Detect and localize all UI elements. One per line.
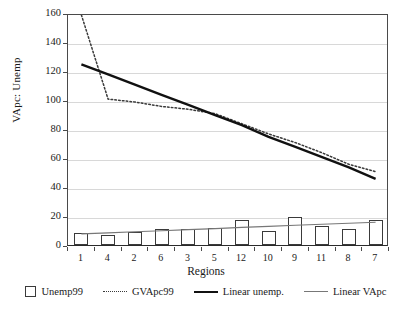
x-axis-title: Regions bbox=[0, 265, 412, 277]
x-axis-tick-mark bbox=[94, 247, 95, 251]
x-axis-tick-label: 10 bbox=[254, 252, 282, 263]
x-axis-tick-mark bbox=[308, 247, 309, 251]
x-axis-tick-label: 12 bbox=[227, 252, 255, 263]
x-axis-tick-label: 5 bbox=[200, 252, 228, 263]
x-axis-tick-mark bbox=[388, 247, 389, 251]
bar bbox=[342, 229, 356, 245]
x-axis-tick-mark bbox=[201, 247, 202, 251]
x-axis-tick-label: 1 bbox=[66, 252, 94, 263]
plot-area bbox=[67, 14, 388, 246]
x-axis-tick-mark bbox=[281, 247, 282, 251]
legend-item[interactable]: Unemp99 bbox=[25, 286, 82, 297]
chart-container: VApc: Unemp 020406080100120140160 142635… bbox=[0, 0, 412, 313]
x-axis-tick-label: 2 bbox=[120, 252, 148, 263]
thin-line-marker bbox=[304, 291, 328, 292]
legend-item[interactable]: Linear unemp. bbox=[194, 286, 284, 297]
bar bbox=[315, 226, 329, 245]
thick-line-marker bbox=[194, 291, 218, 293]
x-axis-tick-label: 4 bbox=[93, 252, 121, 263]
y-axis-tick-label: 0 bbox=[1, 240, 61, 251]
legend-label: GVApc99 bbox=[132, 286, 174, 297]
bar bbox=[155, 229, 169, 245]
y-axis-tick-label: 140 bbox=[1, 37, 61, 48]
legend-item[interactable]: Linear VApc bbox=[304, 286, 387, 297]
x-axis-tick-mark bbox=[67, 247, 68, 251]
y-axis-tick-label: 160 bbox=[1, 8, 61, 19]
y-axis-tick-label: 20 bbox=[1, 211, 61, 222]
bar bbox=[235, 220, 249, 245]
x-axis-tick-mark bbox=[361, 247, 362, 251]
legend-label: Linear VApc bbox=[333, 286, 387, 297]
legend-label: Unemp99 bbox=[41, 286, 82, 297]
bar-series-unemp99 bbox=[68, 15, 387, 245]
chart-legend: Unemp99GVApc99Linear unemp.Linear VApc bbox=[0, 286, 412, 297]
x-axis-tick-label: 6 bbox=[147, 252, 175, 263]
x-axis-tick-mark bbox=[147, 247, 148, 251]
x-axis-tick-mark bbox=[174, 247, 175, 251]
bar bbox=[128, 232, 142, 245]
bar bbox=[208, 228, 222, 245]
x-axis-tick-label: 7 bbox=[361, 252, 389, 263]
bar bbox=[74, 233, 88, 245]
legend-label: Linear unemp. bbox=[223, 286, 284, 297]
x-axis-tick-label: 3 bbox=[173, 252, 201, 263]
bar bbox=[101, 235, 115, 245]
x-axis-tick-mark bbox=[228, 247, 229, 251]
x-axis-tick-mark bbox=[335, 247, 336, 251]
x-axis-tick-mark bbox=[254, 247, 255, 251]
y-axis-tick-label: 80 bbox=[1, 124, 61, 135]
bar bbox=[369, 220, 383, 245]
x-axis-tick-label: 11 bbox=[307, 252, 335, 263]
x-axis-tick-label: 8 bbox=[334, 252, 362, 263]
dotted-line-marker bbox=[103, 291, 127, 292]
y-axis-tick-label: 100 bbox=[1, 95, 61, 106]
y-axis-tick-label: 120 bbox=[1, 66, 61, 77]
x-axis-tick-mark bbox=[121, 247, 122, 251]
bar bbox=[262, 231, 276, 246]
open-square-marker bbox=[25, 286, 36, 297]
y-axis-tick-label: 40 bbox=[1, 182, 61, 193]
x-axis-tick-label: 9 bbox=[280, 252, 308, 263]
bar bbox=[288, 217, 302, 245]
legend-item[interactable]: GVApc99 bbox=[103, 286, 174, 297]
y-axis-tick-label: 60 bbox=[1, 153, 61, 164]
bar bbox=[181, 229, 195, 245]
